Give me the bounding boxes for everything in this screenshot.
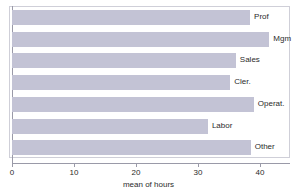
- x-tick-label: 40: [256, 168, 265, 177]
- bar-other: [12, 140, 251, 155]
- bar-row: Operat.: [12, 94, 290, 116]
- x-axis-line: [12, 163, 290, 164]
- bar-label-operat: Operat.: [258, 96, 285, 111]
- bar-row: Labor: [12, 116, 290, 138]
- bar-label-cler: Cler.: [234, 74, 250, 89]
- x-axis-title: mean of hours: [0, 180, 297, 189]
- x-tick-label: 10: [70, 168, 79, 177]
- x-tick-mark: [74, 163, 75, 167]
- bar-mgm: [12, 32, 269, 47]
- bar-cler: [12, 75, 230, 90]
- bar-row: Other: [12, 137, 290, 159]
- x-tick-mark: [198, 163, 199, 167]
- bar-row: Mgm: [12, 29, 290, 51]
- bar-sales: [12, 53, 236, 68]
- x-tick-mark: [260, 163, 261, 167]
- bar-row: Sales: [12, 50, 290, 72]
- bar-row: Cler.: [12, 72, 290, 94]
- bar-chart: Prof Mgm Sales Cler. Operat. Labor Other…: [0, 0, 297, 194]
- bar-label-prof: Prof: [254, 9, 269, 24]
- x-tick-label: 30: [194, 168, 203, 177]
- bar-label-labor: Labor: [212, 118, 232, 133]
- bar-label-sales: Sales: [240, 52, 260, 67]
- bar-operat: [12, 97, 254, 112]
- x-tick-label: 0: [10, 168, 14, 177]
- bars-area: Prof Mgm Sales Cler. Operat. Labor Other: [12, 6, 290, 158]
- bar-label-other: Other: [255, 139, 275, 154]
- x-tick-mark: [136, 163, 137, 167]
- bar-label-mgm: Mgm: [273, 31, 291, 46]
- x-tick-mark: [12, 163, 13, 167]
- bar-labor: [12, 119, 208, 134]
- bar-row: Prof: [12, 7, 290, 29]
- bar-prof: [12, 10, 250, 25]
- x-tick-label: 20: [132, 168, 141, 177]
